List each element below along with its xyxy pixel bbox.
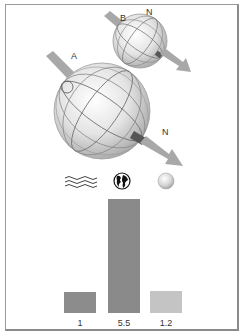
north-a-label: N	[162, 128, 169, 137]
rotation-axis-arrow-a-head	[140, 136, 183, 166]
globe-b-label: B	[120, 14, 126, 23]
bar-moon	[150, 291, 182, 313]
bar-moon-value: 1.2	[150, 319, 182, 328]
earth-globe-icon	[113, 172, 131, 190]
globe-a-label: A	[71, 52, 77, 61]
bar-water	[64, 292, 96, 313]
rotation-axis-arrow-b-head	[160, 49, 191, 72]
north-b-label: N	[146, 8, 153, 17]
moon-sphere-icon	[157, 172, 175, 190]
water-waves-icon	[64, 174, 100, 190]
bar-earth	[108, 199, 140, 313]
bar-earth-value: 5.5	[108, 319, 140, 328]
bar-water-value: 1	[64, 319, 96, 328]
rotation-axis-arrow-a	[46, 51, 74, 78]
